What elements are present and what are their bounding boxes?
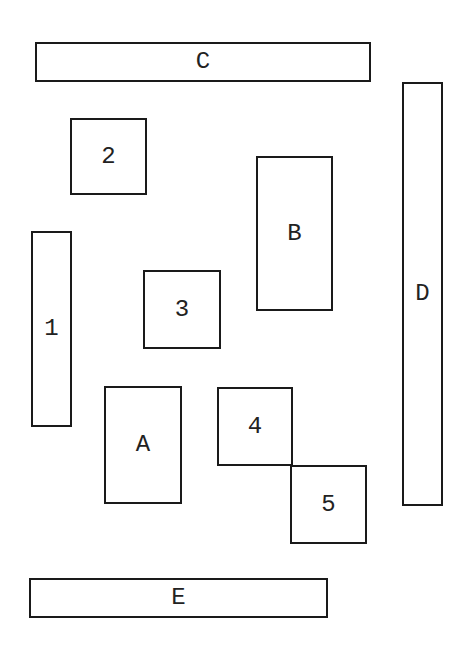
box-e-label: E [171, 586, 185, 610]
box-3-label: 3 [175, 298, 189, 322]
box-2: 2 [70, 118, 147, 195]
box-2-label: 2 [101, 145, 115, 169]
box-e: E [29, 578, 328, 618]
box-d: D [402, 82, 443, 506]
box-5: 5 [290, 465, 367, 544]
box-a-label: A [136, 433, 150, 457]
box-c: C [35, 42, 371, 82]
box-1-label: 1 [44, 317, 58, 341]
box-4: 4 [217, 387, 293, 466]
box-b-label: B [287, 222, 301, 246]
box-5-label: 5 [321, 493, 335, 517]
box-b: B [256, 156, 333, 311]
box-c-label: C [196, 50, 210, 74]
box-4-label: 4 [248, 415, 262, 439]
box-1: 1 [31, 231, 72, 427]
box-3: 3 [143, 270, 221, 349]
box-d-label: D [415, 282, 429, 306]
box-a: A [104, 386, 182, 504]
